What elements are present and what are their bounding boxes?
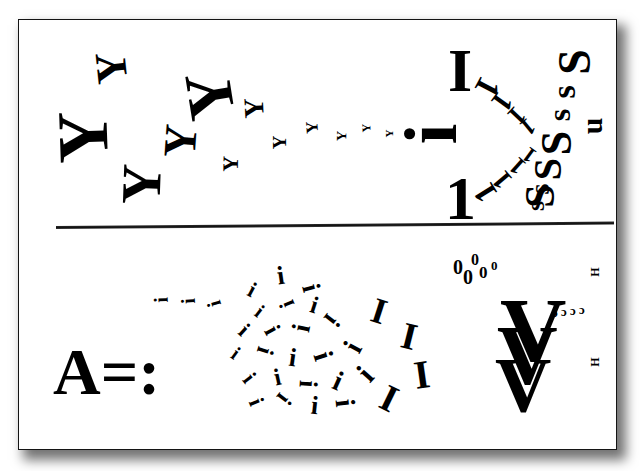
glyph-panels: YYYYYYYYYYYYIi111111111SssSSssSuA=:iiiii… xyxy=(19,20,616,449)
glyph-h-marks-0: H xyxy=(589,267,601,276)
image-canvas: YYYYYYYYYYYYIi111111111SssSSssSuA=:iiiii… xyxy=(0,0,640,471)
glyph-h-marks-1: H xyxy=(589,357,601,366)
glyph-group-h-marks: HH xyxy=(19,20,616,449)
paper-sheet: YYYYYYYYYYYYIi111111111SssSSssSuA=:iiiii… xyxy=(18,19,617,450)
lower-panel: A=:iiiiiiiiiiiiiiiiiiiiiiiiiiiIIII00000V… xyxy=(19,20,616,449)
